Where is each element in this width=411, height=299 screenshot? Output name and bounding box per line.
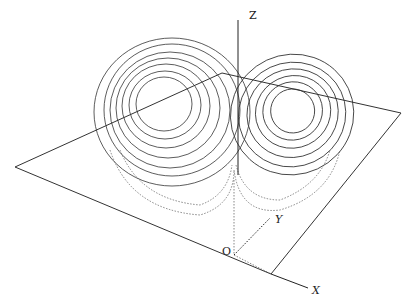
y-axis-label: Y: [275, 213, 282, 226]
xy-plane: [15, 73, 401, 274]
lorenz-attractor-diagram: Z Y X O: [0, 0, 411, 299]
left-wing: [94, 38, 250, 186]
origin-label: O: [222, 245, 231, 258]
z-axis-label: Z: [249, 9, 257, 22]
x-axis: [271, 274, 308, 288]
y-axis: [234, 218, 270, 255]
x-axis-label: X: [312, 284, 320, 297]
right-wing: [211, 34, 374, 195]
axes: [234, 20, 308, 288]
attractor-plot: [0, 0, 411, 299]
